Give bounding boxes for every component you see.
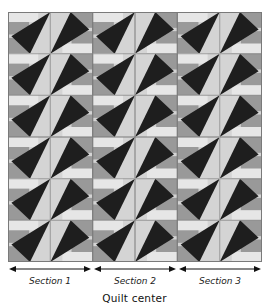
section-1-label: Section 1	[8, 276, 92, 286]
quilt-block	[8, 95, 50, 137]
quilt-block	[50, 220, 92, 262]
quilt-block	[93, 220, 135, 262]
quilt-block	[50, 137, 92, 179]
quilt-block	[177, 220, 219, 262]
quilt-block	[177, 137, 219, 179]
quilt-block	[135, 179, 177, 221]
quilt-block	[93, 12, 135, 54]
quilt-block	[8, 179, 50, 221]
double-arrow-icon	[8, 264, 92, 276]
quilt-block	[177, 54, 219, 96]
quilt-block	[177, 12, 219, 54]
section-dimension-markers: Section 1 Section 2 Section 3	[8, 264, 262, 288]
section-1-marker: Section 1	[8, 264, 92, 288]
quilt-block	[220, 95, 262, 137]
quilt-block	[93, 95, 135, 137]
section-3-marker: Section 3	[178, 264, 262, 288]
quilt-block	[93, 54, 135, 96]
quilt-block	[50, 95, 92, 137]
quilt-block	[8, 54, 50, 96]
quilt-blocks	[8, 12, 262, 262]
quilt-block	[50, 54, 92, 96]
quilt-block	[220, 12, 262, 54]
quilt-block	[177, 179, 219, 221]
quilt-block	[50, 179, 92, 221]
quilt-block	[8, 220, 50, 262]
quilt-block	[135, 137, 177, 179]
quilt-block	[135, 220, 177, 262]
quilt-block	[220, 54, 262, 96]
quilt-block	[135, 95, 177, 137]
diagram-caption: Quilt center	[0, 292, 269, 304]
double-arrow-icon	[178, 264, 262, 276]
quilt-block	[177, 95, 219, 137]
quilt-block	[8, 137, 50, 179]
section-3-label: Section 3	[178, 276, 262, 286]
quilt-block	[135, 54, 177, 96]
quilt-block	[220, 137, 262, 179]
quilt-block	[220, 179, 262, 221]
quilt-block	[135, 12, 177, 54]
section-2-marker: Section 2	[93, 264, 177, 288]
quilt-block	[220, 220, 262, 262]
double-arrow-icon	[93, 264, 177, 276]
section-2-label: Section 2	[93, 276, 177, 286]
quilt-block	[93, 137, 135, 179]
quilt-block	[50, 12, 92, 54]
quilt-center-diagram	[8, 12, 262, 262]
quilt-block	[8, 12, 50, 54]
quilt-block	[93, 179, 135, 221]
